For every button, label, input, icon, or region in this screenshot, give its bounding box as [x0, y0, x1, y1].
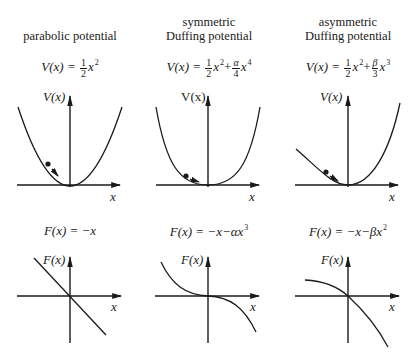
diagram-canvas: V(x) x V(x) x V(x) x F(x) x F(x) x: [0, 0, 418, 358]
force-graph-asymmetric: F(x) x: [295, 252, 399, 347]
force-graph-symmetric: F(x) x: [155, 252, 259, 343]
v-axis-label: V(x): [181, 89, 206, 104]
motion-arrow: [52, 169, 58, 176]
v-axis-label: V(x): [320, 89, 342, 104]
potential-graph-symmetric: V(x) x: [156, 89, 260, 204]
f-axis-label: F(x): [320, 252, 343, 267]
potential-graph-parabolic: V(x) x: [17, 89, 122, 204]
potential-graph-asymmetric: V(x) x: [295, 89, 400, 204]
f-axis-label: F(x): [42, 252, 65, 267]
ball: [323, 169, 328, 174]
ball: [45, 161, 50, 166]
v-axis-label: V(x): [43, 89, 65, 104]
x-axis-label: x: [388, 189, 395, 204]
ball: [183, 173, 188, 178]
x-axis-label: x: [388, 299, 395, 314]
x-axis-label: x: [248, 189, 255, 204]
x-axis-label: x: [249, 299, 256, 314]
f-axis-label: F(x): [180, 252, 203, 267]
force-graph-parabolic: F(x) x: [17, 252, 121, 343]
x-axis-label: x: [110, 299, 117, 314]
quadratic-force-curve: [305, 280, 388, 347]
x-axis-label: x: [109, 189, 116, 204]
